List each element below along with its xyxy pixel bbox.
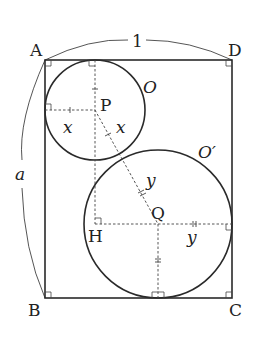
label-x-diagonal: x bbox=[116, 117, 126, 137]
label-x-horizontal: x bbox=[63, 117, 73, 137]
right-angle-b bbox=[45, 292, 51, 298]
geometry-diagram: 1 a A D B C P Q H O O′ x x y y bbox=[0, 0, 256, 344]
label-b: B bbox=[28, 300, 41, 320]
rectangle-abcd bbox=[45, 60, 232, 298]
right-angle-d bbox=[226, 60, 232, 66]
width-brace-left bbox=[45, 40, 128, 60]
label-circle-o: O bbox=[143, 77, 157, 97]
label-q: Q bbox=[151, 203, 165, 223]
height-label: a bbox=[15, 164, 25, 184]
label-y-diagonal: y bbox=[145, 170, 156, 190]
label-y-horizontal: y bbox=[186, 227, 197, 247]
tick-p-diagonal bbox=[105, 133, 111, 136]
height-brace-top bbox=[21, 60, 45, 160]
label-h: H bbox=[88, 226, 103, 246]
label-d: D bbox=[228, 40, 242, 60]
right-angle-a bbox=[45, 60, 51, 66]
label-p: P bbox=[100, 95, 111, 115]
label-c: C bbox=[229, 300, 242, 320]
right-angle-h bbox=[95, 218, 101, 224]
height-brace-bottom bbox=[22, 188, 45, 298]
label-circle-o-prime: O′ bbox=[198, 142, 216, 162]
width-brace-right bbox=[146, 40, 232, 60]
label-a: A bbox=[29, 40, 43, 60]
width-label: 1 bbox=[132, 31, 143, 51]
right-angle-c bbox=[226, 292, 232, 298]
line-pq bbox=[95, 110, 158, 224]
